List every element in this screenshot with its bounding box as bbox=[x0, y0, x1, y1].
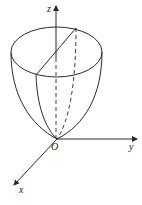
y-axis-label: y bbox=[128, 141, 134, 152]
paraboloid-diagram: z y x O bbox=[0, 0, 142, 205]
z-axis-label: z bbox=[46, 3, 51, 14]
section-front-curve bbox=[36, 75, 57, 139]
section-back-curve bbox=[57, 28, 76, 139]
origin-label: O bbox=[51, 141, 58, 152]
diagram-canvas: z y x O bbox=[0, 0, 142, 205]
x-axis-label: x bbox=[18, 184, 24, 195]
